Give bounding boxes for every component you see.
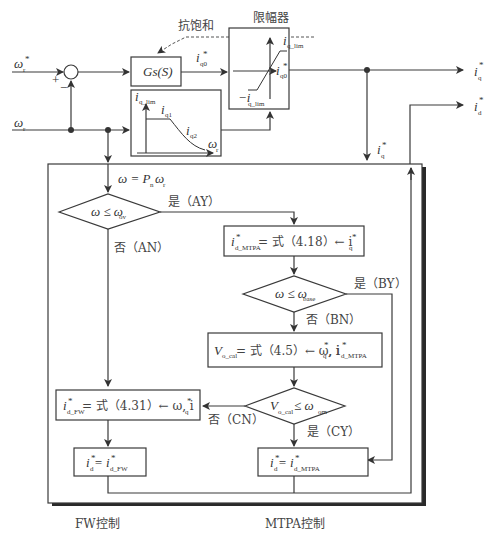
svg-text:q: q (323, 352, 327, 360)
svg-text:d_MTPA: d_MTPA (341, 352, 367, 360)
summing-junction (64, 65, 78, 79)
svg-text:q: q (349, 244, 353, 252)
svg-text:r: r (23, 125, 26, 133)
fw-caption: FW控制 (75, 517, 120, 531)
no-a-label: 否（AN） (114, 241, 169, 255)
svg-text:*: * (382, 140, 387, 150)
svg-text:= 式（4.31）← ω, i: = 式（4.31）← ω, i (82, 399, 194, 413)
yes-a-label: 是（AY） (168, 195, 220, 209)
svg-text:= 式（4.18）← i: = 式（4.18）← i (258, 235, 352, 249)
limit-to-limiter-line (221, 112, 270, 130)
svg-text:*: * (25, 54, 30, 64)
omega-r-star-input: ω r * (14, 54, 30, 74)
anti-windup-label: 抗饱和 (178, 18, 214, 33)
svg-text:q0: q0 (280, 72, 288, 80)
svg-text:*: * (187, 396, 192, 406)
svg-text:d_FW: d_FW (110, 465, 128, 473)
no-b-label: 否（BN） (306, 313, 361, 327)
decision-a-text: ω ≤ ω ov (91, 204, 127, 221)
iq-output-label: i q * (474, 60, 484, 82)
svg-text:ov: ov (119, 213, 127, 221)
svg-text:*: * (111, 453, 116, 463)
svg-text:ω: ω (14, 56, 23, 71)
yes-b-label: 是（BY） (354, 277, 407, 291)
no-c-label: 否（CN） (208, 413, 264, 427)
svg-text:q: q (381, 152, 385, 160)
svg-text:base: base (303, 295, 315, 303)
svg-text:n: n (150, 181, 154, 189)
id-output-label: i d * (474, 95, 484, 117)
svg-text:*: * (342, 340, 347, 350)
svg-text:q_lim: q_lim (287, 42, 304, 50)
iq-feed-label: i q * (377, 140, 387, 160)
svg-text:*: * (203, 49, 208, 59)
svg-text:ω: ω (14, 115, 23, 130)
controller-label: Gs(S) (143, 64, 173, 79)
svg-text:q1: q1 (165, 111, 173, 119)
svg-text:q_lim: q_lim (139, 98, 156, 106)
svg-text:*: * (295, 453, 300, 463)
svg-text:*: * (236, 232, 241, 242)
svg-text:= i: = i (94, 455, 110, 470)
svg-text:*: * (68, 396, 73, 406)
svg-text:≤ ω: ≤ ω (294, 398, 314, 413)
svg-text:q: q (185, 408, 189, 416)
svg-text:ω = P: ω = P (118, 171, 150, 186)
mtpa-caption: MTPA控制 (265, 517, 325, 531)
svg-text:o_cal: o_cal (278, 408, 293, 416)
limiter-upper-label: i q_lim (283, 33, 304, 50)
svg-text:q: q (478, 74, 482, 82)
svg-text:q0: q0 (200, 60, 208, 68)
svg-text:q2: q2 (190, 132, 198, 140)
svg-text:, i: , i (328, 344, 340, 358)
minus-sign: − (60, 80, 67, 95)
svg-text:d_MTPA: d_MTPA (235, 244, 261, 252)
yes-c-label: 是（CY） (307, 425, 360, 439)
svg-text:*: * (479, 60, 484, 70)
iq0-label: i q0 * (196, 49, 208, 68)
svg-text:*: * (283, 61, 288, 71)
svg-text:*: * (479, 95, 484, 105)
svg-text:= i: = i (278, 455, 294, 470)
plus-sign: + (52, 72, 59, 87)
id-output-line (410, 105, 463, 166)
control-block-diagram: ω r * + − Gs(S) 抗饱和 i q0 * 限幅器 i q_lim −… (0, 0, 498, 540)
svg-text:d: d (478, 109, 482, 117)
svg-text:*: * (352, 232, 357, 242)
svg-text:q_lim: q_lim (248, 100, 265, 108)
limiter-title: 限幅器 (253, 10, 289, 25)
svg-text:r: r (23, 66, 26, 74)
svg-text:d_MTPA: d_MTPA (294, 465, 320, 473)
svg-text:o_cal: o_cal (222, 352, 237, 360)
svg-text:om: om (318, 408, 328, 416)
